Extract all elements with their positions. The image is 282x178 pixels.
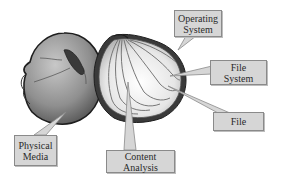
callout-physical-media: Physical Media — [14, 135, 57, 166]
callout-label-line: System — [183, 24, 212, 35]
callout-operating-system: Operating System — [174, 10, 222, 37]
callout-file-system: File System — [210, 60, 267, 85]
whole-onion — [21, 33, 102, 124]
callout-label-line: Operating — [178, 13, 218, 24]
callout-label-line: Content — [125, 151, 157, 162]
cut-onion — [94, 34, 186, 122]
callout-file: File — [213, 112, 264, 131]
callout-label-line: Media — [23, 151, 49, 162]
callout-label-line: File — [231, 62, 247, 73]
callout-label-line: Physical — [19, 140, 53, 151]
callout-content-analysis: Content Analysis — [106, 150, 175, 173]
callout-label-line: File — [231, 116, 247, 127]
callout-label-line: Analysis — [123, 162, 158, 173]
callout-label-line: System — [224, 73, 253, 84]
